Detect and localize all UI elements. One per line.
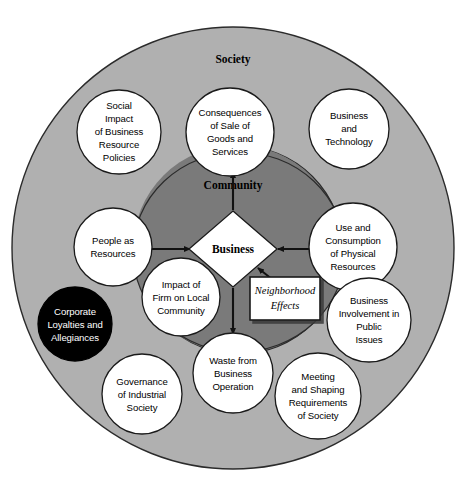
node-line: of Industrial xyxy=(118,389,166,400)
node-line: People as xyxy=(92,235,134,246)
core-label-business: Business xyxy=(212,243,255,255)
node-line: and Shaping xyxy=(292,384,345,395)
node-meeting-and-shaping-requirements-of-society[interactable]: Meeting and Shaping Requirements of Soci… xyxy=(275,353,361,439)
node-line: Goods and xyxy=(207,133,253,144)
node-corporate-loyalties-and-allegiances[interactable]: Corporate Loyalties and Allegiances xyxy=(38,287,112,361)
node-line: Business xyxy=(214,368,252,379)
node-waste-from-business-operation[interactable]: Waste from Business Operation xyxy=(193,333,273,413)
node-consequences-of-sale-of-goods-and-services[interactable]: Consequences of Sale of Goods and Servic… xyxy=(186,88,274,176)
diagram-root: Society Community Business Neighborhood xyxy=(0,0,466,488)
callout-neighborhood-effects[interactable]: Neighborhood Effects xyxy=(250,277,320,320)
node-line: Issues xyxy=(355,334,382,345)
node-line: Social xyxy=(106,100,132,111)
node-line: Services xyxy=(212,146,248,157)
node-line: Meeting xyxy=(301,371,334,382)
node-use-and-consumption-of-physical-resources[interactable]: Use and Consumption of Physical Resource… xyxy=(309,203,397,291)
node-line: Society xyxy=(127,402,158,413)
node-line: Resources xyxy=(331,261,376,272)
node-line: Governance xyxy=(116,376,167,387)
node-line: Firm on Local xyxy=(153,292,210,303)
node-line: of Business xyxy=(95,126,144,137)
node-line: Requirements xyxy=(289,397,348,408)
node-line: Resources xyxy=(91,248,136,259)
callout-line-2: Effects xyxy=(270,300,300,311)
node-line: Loyalties and xyxy=(47,319,102,330)
callout-line-1: Neighborhood xyxy=(254,285,316,296)
node-line: and xyxy=(341,123,357,134)
node-line: Involvement in xyxy=(339,308,399,319)
ring-label-society: Society xyxy=(215,53,250,66)
node-line: Business xyxy=(330,110,368,121)
node-line: Public xyxy=(356,321,382,332)
node-line: Impact of xyxy=(162,279,201,290)
node-line: Community xyxy=(157,305,205,316)
node-line: Waste from xyxy=(209,355,257,366)
node-line: Corporate xyxy=(54,306,96,317)
node-business-involvement-in-public-issues[interactable]: Business Involvement in Public Issues xyxy=(327,278,411,362)
node-line: Consumption xyxy=(325,235,380,246)
node-line: Operation xyxy=(212,381,253,392)
node-line: Business xyxy=(350,295,388,306)
node-line: Resource xyxy=(99,139,139,150)
node-line: of Physical xyxy=(330,248,375,259)
node-line: Allegiances xyxy=(51,332,99,343)
node-governance-of-industrial-society[interactable]: Governance of Industrial Society xyxy=(102,354,182,434)
node-line: Technology xyxy=(325,136,373,147)
diagram-canvas: Society Community Business Neighborhood xyxy=(0,0,466,488)
node-impact-of-firm-on-local-community[interactable]: Impact of Firm on Local Community xyxy=(142,258,220,336)
node-line: Policies xyxy=(103,152,136,163)
node-social-impact-of-business-resource-policies[interactable]: Social Impact of Business Resource Polic… xyxy=(77,90,161,174)
node-business-and-technology[interactable]: Business and Technology xyxy=(309,89,389,169)
node-people-as-resources[interactable]: People as Resources xyxy=(74,208,152,286)
node-line: Consequences xyxy=(199,107,262,118)
node-line: Impact xyxy=(105,113,134,124)
node-line: of Sale of xyxy=(210,120,250,131)
node-line: Use and xyxy=(335,222,370,233)
node-line: of Society xyxy=(297,410,338,421)
